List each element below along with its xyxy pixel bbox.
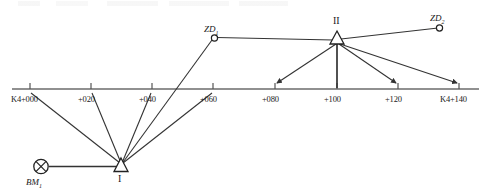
turning-point-marker-zd2 xyxy=(436,25,442,31)
axis-label-020: +020 xyxy=(78,95,95,104)
turning-point-label-zd2-subscript: 2 xyxy=(442,19,445,25)
figure-canvas: K4+000 +020 +040 +060 +080 +100 +120 K4+… xyxy=(0,0,487,195)
sight-line-zd1-to-station-2 xyxy=(217,38,333,41)
turning-point-marker-zd1 xyxy=(211,35,217,41)
axis-label-080: +080 xyxy=(262,95,279,104)
axis-label-040: +040 xyxy=(139,95,156,104)
turning-point-label-zd2-text: ZD xyxy=(430,13,442,23)
axis-tick-group xyxy=(30,83,459,89)
benchmark-label-text: BM xyxy=(26,177,39,187)
station-label-2: II xyxy=(333,16,340,26)
turning-point-label-zd1: ZD1 xyxy=(204,25,219,36)
sight-line-station2-to-120 xyxy=(339,44,396,83)
sight-line-station2-to-080 xyxy=(277,44,336,83)
benchmark-label-bm1: BM1 xyxy=(26,178,42,189)
sight-rays-station-1 xyxy=(31,40,212,163)
axis-label-k4-000: K4+000 xyxy=(11,95,38,104)
traverse-diagram-svg xyxy=(0,0,487,195)
axis-label-120: +120 xyxy=(385,95,402,104)
station-marker-2 xyxy=(330,31,344,44)
turning-point-label-zd1-subscript: 1 xyxy=(216,30,219,36)
axis-label-100: +100 xyxy=(324,95,341,104)
benchmark-label-subscript: 1 xyxy=(39,183,42,189)
sight-line-station2-to-k4-140 xyxy=(340,44,457,83)
sight-rays-station-2 xyxy=(277,44,457,88)
axis-label-k4-140: K4+140 xyxy=(440,95,467,104)
turning-point-label-zd2: ZD2 xyxy=(430,14,445,25)
benchmark-marker-bm1 xyxy=(34,159,48,173)
station-label-1: I xyxy=(118,174,121,184)
turning-point-label-zd1-text: ZD xyxy=(204,24,216,34)
sight-line-station1-to-zd1 xyxy=(123,40,213,163)
axis-label-060: +060 xyxy=(200,95,217,104)
sight-line-station2-to-zd2 xyxy=(341,28,438,39)
